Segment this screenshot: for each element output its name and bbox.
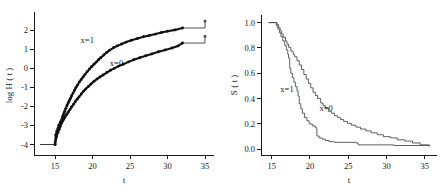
left-data-marker	[127, 60, 130, 63]
left-data-marker	[88, 67, 91, 70]
left-curve-x=1	[55, 28, 183, 145]
left-chart-svg: 1520253035 -4-3-2-1012 x=1x=0 t log H ( …	[0, 0, 223, 190]
left-data-marker	[74, 100, 77, 103]
left-data-marker	[99, 75, 102, 78]
left-y-tick-label: -4	[21, 140, 29, 150]
right-axes-group: 1520253035 0.00.20.40.60.81.0	[244, 15, 437, 171]
left-data-marker	[84, 87, 87, 90]
left-data-marker	[99, 56, 102, 59]
left-y-tick-group: -4-3-2-1012	[21, 25, 34, 149]
left-data-marker	[166, 30, 169, 33]
right-x-tick-label: 35	[421, 161, 430, 171]
left-data-marker	[90, 83, 93, 86]
left-data-marker	[86, 70, 89, 73]
left-data-marker	[116, 44, 119, 47]
left-y-tick-label: -3	[21, 120, 28, 130]
left-data-marker	[105, 71, 108, 74]
left-data-marker	[82, 90, 85, 93]
left-data-marker	[181, 27, 184, 30]
right-y-tick-label: 0.8	[244, 43, 255, 53]
left-annotation-group: x=1x=0	[81, 35, 124, 68]
left-x-tick-label: 20	[88, 161, 97, 171]
left-data-marker	[69, 108, 72, 111]
left-data-marker	[58, 128, 61, 131]
left-y-tick-label: -2	[21, 101, 28, 111]
left-data-marker	[102, 74, 105, 77]
left-data-marker	[108, 49, 111, 52]
left-x-axis-title: t	[123, 175, 126, 185]
left-data-marker	[112, 46, 115, 49]
left-data-marker	[120, 43, 123, 46]
left-data-marker	[130, 39, 133, 42]
right-y-tick-label: 1.0	[244, 18, 255, 28]
left-data-marker	[78, 95, 81, 98]
left-data-marker	[142, 35, 145, 38]
left-data-marker	[70, 106, 73, 109]
left-curve-endpoint-marker	[204, 35, 207, 38]
left-axes-group: 1520253035 -4-3-2-1012	[21, 12, 214, 171]
right-x-axis-title: t	[348, 175, 351, 185]
left-data-marker	[138, 56, 141, 59]
chart-panel-right: 1520253035 0.00.20.40.60.81.0 x=1x=0 t S…	[223, 0, 446, 190]
right-x-tick-label: 25	[344, 161, 353, 171]
left-data-marker	[72, 103, 75, 106]
left-y-tick-label: 0	[24, 63, 28, 73]
left-data-marker	[76, 84, 79, 87]
left-data-marker	[64, 107, 67, 110]
left-data-marker	[93, 80, 96, 83]
left-y-tick-label: 1	[24, 44, 28, 54]
left-x-tick-label: 25	[126, 161, 135, 171]
right-x-tick-group: 1520253035	[267, 155, 429, 171]
right-annotation-group: x=1x=0	[280, 84, 332, 114]
figure-container: 1520253035 -4-3-2-1012 x=1x=0 t log H ( …	[0, 0, 446, 190]
right-y-tick-label: 0.0	[244, 144, 255, 154]
left-data-marker	[55, 135, 58, 138]
left-data-marker	[80, 93, 83, 96]
left-data-marker	[96, 78, 99, 81]
left-data-marker	[160, 31, 163, 34]
left-series-label-x=0: x=0	[110, 58, 123, 68]
left-x-tick-group: 1520253035	[51, 155, 210, 171]
left-data-marker	[157, 50, 160, 53]
left-x-tick-label: 30	[163, 161, 172, 171]
left-data-marker	[72, 92, 75, 95]
left-data-marker	[66, 104, 69, 107]
chart-panel-left: 1520253035 -4-3-2-1012 x=1x=0 t log H ( …	[0, 0, 223, 190]
left-series-label-x=1: x=1	[81, 35, 94, 45]
left-curves-group	[40, 20, 206, 146]
right-x-tick-label: 20	[306, 161, 315, 171]
left-data-marker	[132, 58, 135, 61]
right-series-label-x=1: x=1	[280, 84, 293, 94]
left-data-marker	[90, 65, 93, 68]
left-data-marker	[59, 125, 62, 128]
left-axis-lines	[34, 12, 214, 155]
right-y-tick-label: 0.4	[244, 94, 255, 104]
left-curve-tail-x=1	[183, 21, 206, 28]
left-y-tick-label: 2	[24, 25, 28, 35]
left-x-tick-label: 15	[51, 161, 60, 171]
left-x-tick-label: 35	[201, 161, 210, 171]
right-series-label-x=0: x=0	[319, 103, 332, 113]
left-data-marker	[84, 73, 87, 76]
left-data-marker	[144, 54, 147, 57]
left-data-marker	[105, 51, 108, 54]
left-data-marker	[148, 34, 151, 37]
right-y-tick-group: 0.00.20.40.60.81.0	[244, 18, 261, 155]
right-chart-svg: 1520253035 0.00.20.40.60.81.0 x=1x=0 t S…	[223, 0, 446, 190]
left-curve-endpoint-marker	[204, 20, 207, 23]
left-data-marker	[93, 63, 96, 66]
left-data-marker	[164, 48, 167, 51]
left-data-marker	[80, 78, 83, 81]
left-data-marker	[76, 98, 79, 101]
left-data-marker	[95, 61, 98, 64]
left-data-marker	[102, 54, 105, 57]
left-y-axis-title: log H ( t )	[4, 68, 14, 104]
left-data-marker	[177, 44, 180, 47]
left-data-marker	[171, 47, 174, 50]
left-data-marker	[109, 69, 112, 72]
left-y-tick-label: -1	[21, 82, 28, 92]
left-data-marker	[70, 95, 73, 98]
left-data-marker	[181, 42, 184, 45]
right-x-tick-label: 30	[382, 161, 391, 171]
left-data-marker	[154, 33, 157, 36]
